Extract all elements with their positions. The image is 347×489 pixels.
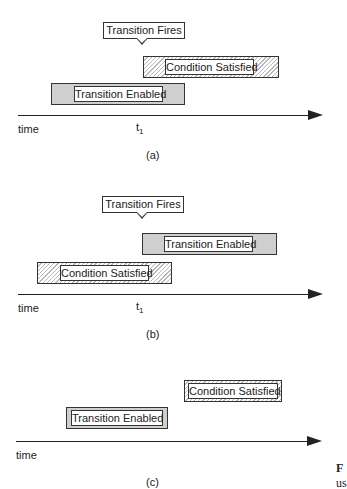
transition-enabled-label: Transition Enabled	[71, 410, 163, 426]
time-axis	[18, 115, 313, 116]
transition-fires-callout: Transition Fires	[103, 22, 185, 39]
condition-satisfied-label: Condition Satisfied	[60, 265, 149, 281]
time-axis	[16, 441, 313, 442]
axis-label-time: time	[16, 450, 37, 461]
condition-satisfied-bar: Condition Satisfied	[184, 380, 282, 402]
time-marker-t1: t1	[136, 301, 144, 312]
caption-b: (b)	[146, 329, 159, 340]
condition-satisfied-bar: Condition Satisfied	[37, 262, 172, 284]
condition-satisfied-bar: Condition Satisfied	[143, 56, 279, 78]
t1-subscript: 1	[139, 306, 143, 315]
margin-text-line1: F	[336, 461, 343, 476]
caption-a: (a)	[146, 150, 159, 161]
margin-text-line2: us	[336, 476, 347, 489]
arrow-right-icon	[308, 289, 323, 299]
arrow-right-icon	[308, 110, 323, 120]
transition-enabled-label: Transition Enabled	[164, 236, 253, 252]
callout-pointer-fill	[137, 38, 147, 43]
time-axis	[18, 294, 313, 295]
callout-pointer-fill	[137, 212, 147, 217]
condition-satisfied-label: Condition Satisfied	[165, 59, 254, 75]
transition-enabled-label: Transition Enabled	[74, 86, 163, 102]
arrow-right-icon	[307, 436, 322, 446]
caption-c: (c)	[146, 477, 159, 488]
axis-label-time: time	[18, 303, 39, 314]
transition-enabled-bar: Transition Enabled	[51, 83, 185, 105]
condition-satisfied-label: Condition Satisfied	[188, 383, 278, 399]
transition-enabled-bar: Transition Enabled	[142, 233, 277, 255]
t1-subscript: 1	[139, 127, 143, 136]
time-marker-t1: t1	[136, 122, 144, 133]
transition-enabled-bar: Transition Enabled	[66, 407, 168, 429]
transition-fires-callout: Transition Fires	[102, 196, 184, 213]
axis-label-time: time	[18, 124, 39, 135]
